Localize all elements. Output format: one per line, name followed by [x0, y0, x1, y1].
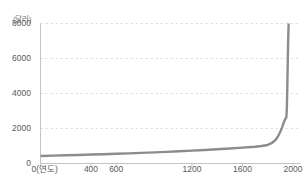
x-tick-label-1600: 1600	[233, 165, 252, 174]
x-axis-tick-labels: 0(연도)400600120016002000	[0, 165, 305, 185]
data-series-layer	[41, 24, 289, 156]
x-tick-label-0: 0(연도)	[32, 165, 58, 174]
x-tick-label-400: 400	[84, 165, 98, 174]
x-tick-label-600: 600	[109, 165, 123, 174]
x-tick-label-1200: 1200	[182, 165, 201, 174]
x-tick-label-2000: 2000	[283, 165, 302, 174]
gridlines	[41, 24, 301, 129]
chart-container: (달러) 02000400060008000 0(연도)400600120016…	[0, 0, 305, 192]
series-line-0	[41, 24, 289, 156]
